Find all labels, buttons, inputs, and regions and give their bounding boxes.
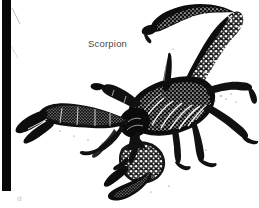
scorpion-label: Scorpion [88,38,127,49]
scorpion-figure: Scorpion d [0,0,259,208]
scorpion-illustration [0,0,259,208]
scan-edge-artifact [2,0,11,191]
figure-panel-letter: d [17,194,21,203]
